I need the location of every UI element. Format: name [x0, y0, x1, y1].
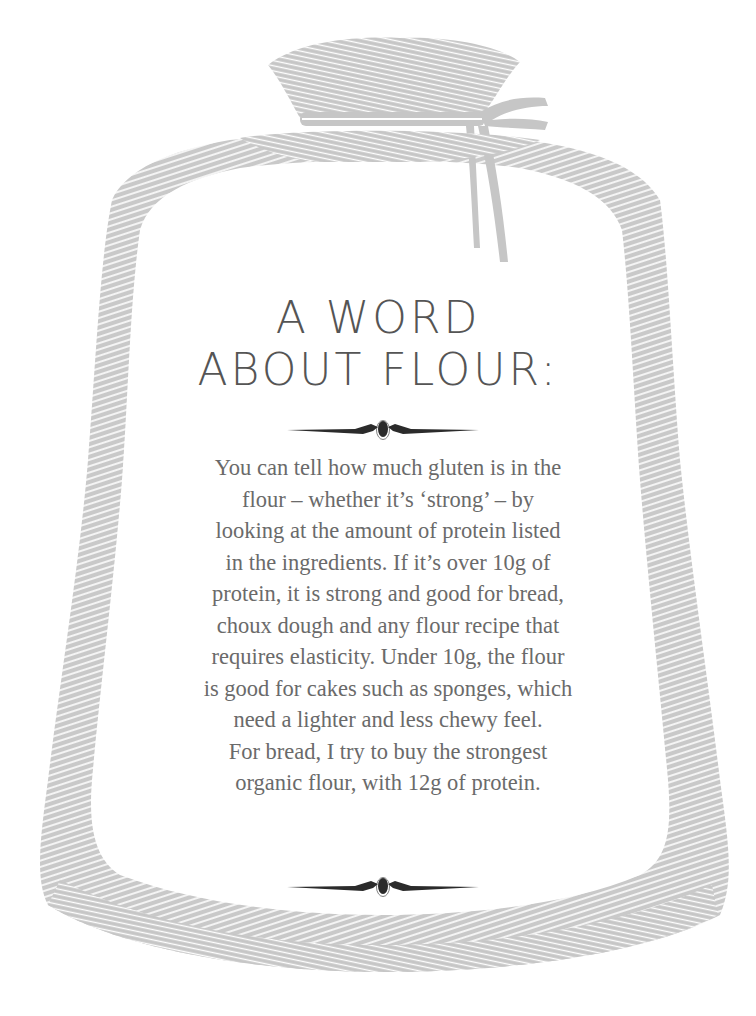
body-line: looking at the amount of protein listed	[150, 515, 626, 547]
body-line: organic flour, with 12g of protein.	[150, 767, 626, 799]
heading-line-2: ABOUT FLOUR:	[0, 344, 756, 396]
body-line: requires elasticity. Under 10g, the flou…	[150, 641, 626, 673]
body-line: choux dough and any flour recipe that	[150, 610, 626, 642]
flour-description: You can tell how much gluten is in the f…	[150, 452, 626, 799]
sack-gathered-top	[268, 38, 520, 118]
body-line: For bread, I try to buy the strongest	[150, 736, 626, 768]
body-line: is good for cakes such as sponges, which	[150, 673, 626, 705]
body-line: in the ingredients. If it’s over 10g of	[150, 547, 626, 579]
body-line: You can tell how much gluten is in the	[150, 452, 626, 484]
ornamental-divider-icon	[283, 871, 483, 901]
heading-line-1: A WORD	[0, 292, 756, 344]
body-line: protein, it is strong and good for bread…	[150, 578, 626, 610]
body-line: need a lighter and less chewy feel.	[150, 704, 626, 736]
body-line: flour – whether it’s ‘strong’ – by	[150, 484, 626, 516]
ornamental-divider-icon	[283, 414, 483, 444]
